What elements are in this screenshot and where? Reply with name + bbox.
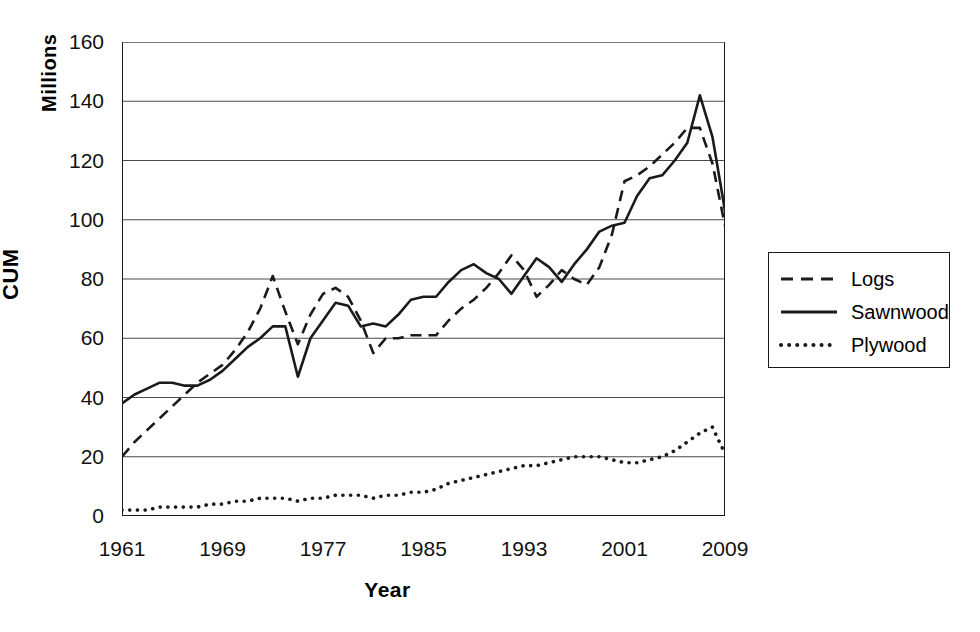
y-tick-40: 40 bbox=[44, 387, 104, 408]
x-tick-1977: 1977 bbox=[278, 538, 368, 559]
y-tick-120: 120 bbox=[44, 150, 104, 171]
x-tick-2001: 2001 bbox=[580, 538, 670, 559]
y-axis-title: CUM bbox=[0, 248, 24, 300]
y-tick-160: 160 bbox=[44, 31, 104, 52]
x-axis-title: Year bbox=[364, 578, 410, 602]
legend-label: Logs bbox=[851, 269, 894, 289]
x-tick-1985: 1985 bbox=[379, 538, 469, 559]
y-tick-20: 20 bbox=[44, 446, 104, 467]
y-tick-80: 80 bbox=[44, 268, 104, 289]
legend-label: Plywood bbox=[851, 335, 927, 355]
y-tick-140: 140 bbox=[44, 90, 104, 111]
legend-swatch-dotted-icon bbox=[779, 338, 839, 352]
legend-swatch-solid-icon bbox=[779, 305, 839, 319]
legend-item-plywood[interactable]: Plywood bbox=[779, 330, 927, 360]
x-tick-1993: 1993 bbox=[479, 538, 569, 559]
chart-figure: Millions CUM 020406080100120140160 19611… bbox=[0, 0, 980, 632]
series-line-sawnwood bbox=[122, 95, 725, 403]
legend-label: Sawnwood bbox=[851, 302, 949, 322]
x-tick-1969: 1969 bbox=[178, 538, 268, 559]
x-tick-1961: 1961 bbox=[77, 538, 167, 559]
x-axis-title-wrap: Year bbox=[0, 578, 980, 602]
legend-swatch-dashed-icon bbox=[779, 272, 839, 286]
y-tick-60: 60 bbox=[44, 327, 104, 348]
y-tick-0: 0 bbox=[44, 505, 104, 526]
y-tick-100: 100 bbox=[44, 209, 104, 230]
series-line-plywood bbox=[122, 427, 725, 510]
x-tick-2009: 2009 bbox=[680, 538, 770, 559]
legend-item-logs[interactable]: Logs bbox=[779, 264, 894, 294]
legend: LogsSawnwoodPlywood bbox=[768, 252, 950, 368]
plot-area bbox=[122, 42, 725, 516]
series-line-logs bbox=[122, 128, 725, 457]
legend-item-sawnwood[interactable]: Sawnwood bbox=[779, 297, 949, 327]
plot-canvas bbox=[122, 42, 725, 516]
